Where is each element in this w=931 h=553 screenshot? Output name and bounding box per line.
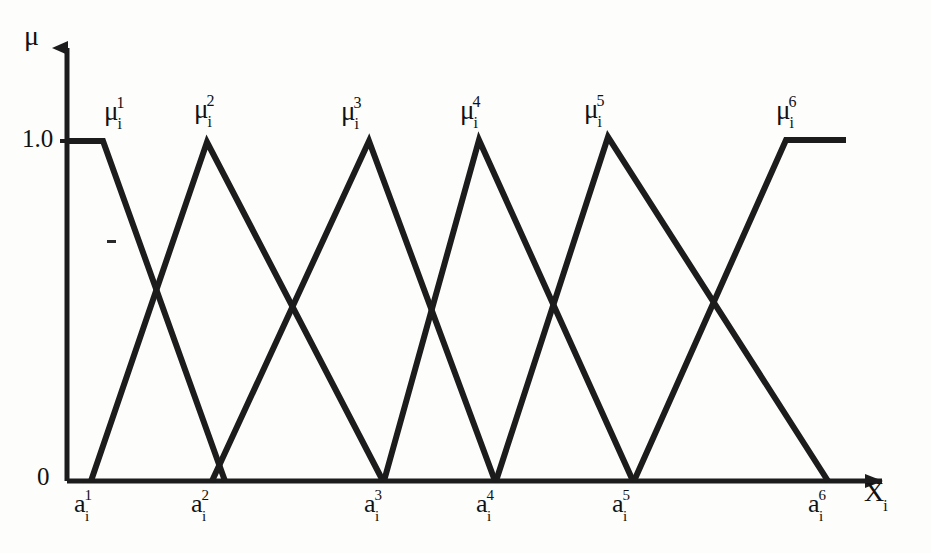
mu-sub: i xyxy=(354,115,358,132)
a-base: a xyxy=(74,489,86,518)
curve-label-mu-4: μ4i xyxy=(460,97,487,124)
curve-label-mu-2: μ2i xyxy=(194,96,221,123)
x-axis-label-base: X xyxy=(864,476,884,507)
x-axis-label-sub: i xyxy=(883,497,887,514)
a-base: a xyxy=(612,489,624,518)
curve-label-mu-5: μ5i xyxy=(584,96,611,123)
a-base: a xyxy=(364,489,376,518)
a-sup: 1 xyxy=(85,487,93,503)
a-base: a xyxy=(191,489,203,518)
mu-sup: 1 xyxy=(116,94,124,111)
curve-label-mu-6: μ6i xyxy=(776,97,803,124)
mu-sup: 6 xyxy=(788,93,796,110)
mu-sub: i xyxy=(473,114,477,131)
membership-plot-svg xyxy=(0,0,931,553)
a-sup: 4 xyxy=(487,487,495,503)
a-sub: i xyxy=(375,508,379,524)
a-base: a xyxy=(808,489,820,518)
x-tick-label-a3: a3i xyxy=(364,491,387,517)
x-tick-label-a1: a1i xyxy=(74,491,97,517)
mu-sub: i xyxy=(789,114,793,131)
a-sup: 6 xyxy=(819,487,827,503)
a-sup: 5 xyxy=(623,487,631,503)
a-base: a xyxy=(476,489,488,518)
x-axis-label: Xi xyxy=(864,478,889,506)
curve-label-mu-3: μ3i xyxy=(341,98,368,125)
fuzzy-membership-figure: μ Xi 1.0 0 μ1i μ2i μ3i μ4i μ5i μ6i a1i a… xyxy=(0,0,931,553)
scan-artifact-dash xyxy=(107,240,116,243)
a-sub: i xyxy=(202,508,206,524)
mu-sup: 4 xyxy=(472,93,480,110)
y-tick-label-one: 1.0 xyxy=(22,126,53,151)
mu-sub: i xyxy=(597,113,601,130)
x-tick-label-a4: a4i xyxy=(476,491,499,517)
mu-sub: i xyxy=(117,115,121,132)
a-sub: i xyxy=(85,508,89,524)
curve-mu-4 xyxy=(384,140,633,481)
curve-mu-5 xyxy=(496,137,828,481)
mu-sup: 3 xyxy=(353,94,361,111)
a-sub: i xyxy=(623,508,627,524)
mu-sup: 5 xyxy=(596,92,604,109)
curve-mu-1 xyxy=(67,141,225,481)
a-sub: i xyxy=(487,508,491,524)
a-sub: i xyxy=(819,508,823,524)
curve-label-mu-1: μ1i xyxy=(104,98,131,125)
y-tick-label-zero: 0 xyxy=(37,464,50,489)
a-sup: 3 xyxy=(375,487,383,503)
x-tick-label-a2: a2i xyxy=(191,491,214,517)
mu-sub: i xyxy=(207,113,211,130)
y-axis-label: μ xyxy=(24,22,39,50)
x-tick-label-a6: a6i xyxy=(808,491,831,517)
a-sup: 2 xyxy=(202,487,210,503)
x-tick-label-a5: a5i xyxy=(612,491,635,517)
mu-sup: 2 xyxy=(206,92,214,109)
curve-mu-6 xyxy=(634,140,846,481)
